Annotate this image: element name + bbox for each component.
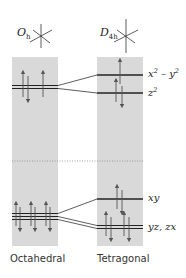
yz-zx-label: yz, zx [148, 221, 176, 232]
x2-y2-z2-electrons [116, 60, 122, 106]
octahedron-axes-icon [30, 24, 52, 48]
yz-zx-level [97, 226, 143, 229]
elongated-octahedron-axes-icon [114, 19, 138, 53]
splitting-diagram [0, 0, 186, 278]
eg-electrons [23, 72, 43, 101]
t2g-correlation-lines [58, 199, 97, 229]
eg-correlation-lines [58, 75, 97, 93]
yz-zx-electrons [106, 213, 129, 240]
octahedral-caption: Octahedral [10, 253, 65, 264]
z2-label: z2 [148, 86, 157, 98]
octahedral-eg-level [12, 86, 58, 89]
tetragonal-caption: Tetragonal [97, 253, 149, 264]
xy-label: xy [148, 192, 159, 203]
x2-y2-label: x2 – y2 [148, 67, 179, 79]
